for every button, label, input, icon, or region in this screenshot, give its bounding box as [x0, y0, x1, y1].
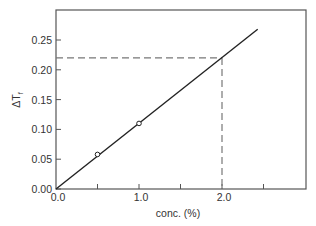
data-point-marker: [137, 121, 142, 126]
fit-line: [56, 29, 258, 189]
y-axis-title-sub: f: [16, 91, 25, 94]
y-tick-label: 0.15: [32, 94, 53, 106]
x-axis-title: conc. (%): [156, 207, 200, 219]
data-point-marker: [95, 152, 100, 157]
y-tick-label: 0.00: [32, 183, 53, 195]
svg-text:ΔTf: ΔTf: [10, 91, 25, 107]
x-axis-ticks: 0.01.02.0: [51, 184, 264, 203]
y-tick-label: 0.25: [32, 34, 53, 46]
x-tick-label: 0.0: [51, 191, 66, 203]
data-series: [56, 29, 258, 189]
y-tick-label: 0.05: [32, 153, 53, 165]
y-tick-label: 0.20: [32, 64, 53, 76]
y-axis-title: ΔTf: [10, 91, 25, 107]
y-tick-label: 0.10: [32, 123, 53, 135]
x-tick-label: 2.0: [217, 191, 232, 203]
y-axis-title-main: ΔT: [10, 94, 22, 108]
chart: 0.000.050.100.150.200.25 0.01.02.0 conc.…: [0, 0, 316, 226]
plot-frame: [56, 10, 306, 189]
x-tick-label: 1.0: [134, 191, 149, 203]
